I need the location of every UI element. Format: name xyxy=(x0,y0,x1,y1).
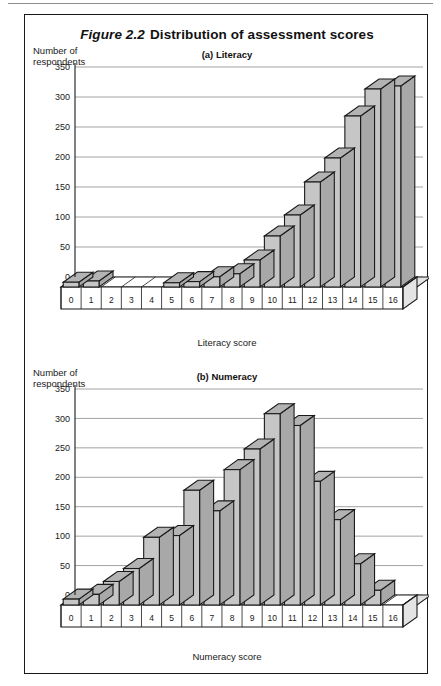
svg-text:13: 13 xyxy=(328,295,338,305)
svg-text:200: 200 xyxy=(55,472,70,482)
chart-literacy: 0501001502002503003500123456789101112131… xyxy=(25,45,429,333)
svg-text:15: 15 xyxy=(368,295,378,305)
svg-text:14: 14 xyxy=(348,295,358,305)
page-top-rule xyxy=(8,3,433,4)
svg-text:9: 9 xyxy=(250,613,255,623)
svg-text:16: 16 xyxy=(388,295,398,305)
svg-text:5: 5 xyxy=(169,295,174,305)
svg-text:12: 12 xyxy=(308,295,318,305)
svg-text:8: 8 xyxy=(230,295,235,305)
svg-text:11: 11 xyxy=(288,613,297,623)
svg-text:15: 15 xyxy=(368,613,378,623)
figure-page: Figure 2.2Distribution of assessment sco… xyxy=(0,0,441,686)
svg-text:150: 150 xyxy=(55,182,70,192)
svg-text:11: 11 xyxy=(288,295,297,305)
panel-literacy: Number of respondents (a) Literacy 05010… xyxy=(25,45,429,365)
svg-text:7: 7 xyxy=(210,295,215,305)
svg-text:2: 2 xyxy=(109,295,114,305)
svg-text:250: 250 xyxy=(55,443,70,453)
svg-text:200: 200 xyxy=(55,152,70,162)
svg-text:7: 7 xyxy=(210,613,215,623)
svg-text:10: 10 xyxy=(268,295,278,305)
svg-text:50: 50 xyxy=(60,242,70,252)
svg-text:300: 300 xyxy=(55,92,70,102)
figure-title-text: Distribution of assessment scores xyxy=(150,27,374,42)
svg-text:3: 3 xyxy=(129,613,134,623)
panel-numeracy: Number of respondents (b) Numeracy 05010… xyxy=(25,367,429,673)
svg-text:250: 250 xyxy=(55,122,70,132)
svg-text:3: 3 xyxy=(129,295,134,305)
svg-text:9: 9 xyxy=(250,295,255,305)
svg-text:1: 1 xyxy=(89,295,94,305)
svg-text:300: 300 xyxy=(55,414,70,424)
svg-text:0: 0 xyxy=(69,295,74,305)
svg-text:5: 5 xyxy=(169,613,174,623)
figure-number: Figure 2.2 xyxy=(80,27,145,42)
svg-text:14: 14 xyxy=(348,613,358,623)
svg-text:13: 13 xyxy=(328,613,338,623)
svg-text:4: 4 xyxy=(149,295,154,305)
panel-heading-literacy: (a) Literacy xyxy=(25,49,429,60)
svg-text:1: 1 xyxy=(89,613,94,623)
figure-title: Figure 2.2Distribution of assessment sco… xyxy=(25,27,429,42)
svg-text:16: 16 xyxy=(388,613,398,623)
figure-box: Figure 2.2Distribution of assessment sco… xyxy=(24,14,428,674)
svg-text:12: 12 xyxy=(308,613,318,623)
svg-text:100: 100 xyxy=(55,531,70,541)
x-axis-caption-literacy: Literacy score xyxy=(25,337,429,348)
svg-text:10: 10 xyxy=(268,613,278,623)
svg-text:2: 2 xyxy=(109,613,114,623)
svg-text:100: 100 xyxy=(55,212,70,222)
svg-text:6: 6 xyxy=(189,295,194,305)
svg-text:150: 150 xyxy=(55,502,70,512)
x-axis-caption-numeracy: Numeracy score xyxy=(25,651,429,662)
svg-text:6: 6 xyxy=(189,613,194,623)
svg-text:8: 8 xyxy=(230,613,235,623)
chart-numeracy: 0501001502002503003500123456789101112131… xyxy=(25,367,429,647)
panel-heading-numeracy: (b) Numeracy xyxy=(25,371,429,382)
svg-text:4: 4 xyxy=(149,613,154,623)
svg-text:50: 50 xyxy=(60,561,70,571)
svg-text:0: 0 xyxy=(69,613,74,623)
